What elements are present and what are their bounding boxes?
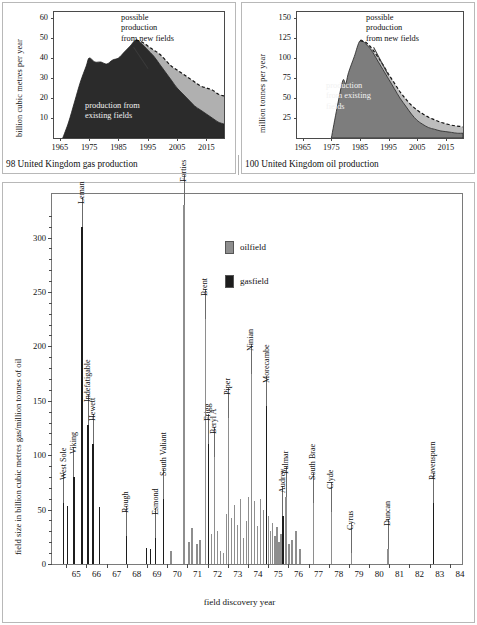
y-tick-label: 50 xyxy=(269,93,291,102)
y-tick-mark xyxy=(294,98,297,99)
y-minor-tick xyxy=(49,357,52,358)
x-tick-label: 1985 xyxy=(347,143,373,152)
gas-production-panel: billion cubic metres per year 1020304050… xyxy=(2,2,236,174)
legend-label-gasfield: gasfield xyxy=(240,276,269,286)
field-bar xyxy=(248,497,249,565)
y-minor-tick xyxy=(49,281,52,282)
y-tick-label: 40 xyxy=(26,53,48,62)
y-minor-tick xyxy=(49,401,52,402)
y-tick-mark xyxy=(51,78,54,79)
x-tick-mark xyxy=(268,564,269,568)
y-minor-tick xyxy=(49,325,52,326)
x-tick-label: 1965 xyxy=(47,143,73,152)
field-bar xyxy=(170,551,171,564)
legend-swatch-oilfield xyxy=(225,241,234,254)
field-bar xyxy=(288,544,289,564)
field-bar xyxy=(295,531,296,564)
y-minor-tick xyxy=(49,553,52,554)
x-tick-mark xyxy=(60,138,61,141)
field-bar xyxy=(263,510,264,564)
y-minor-tick xyxy=(49,259,52,260)
field-bar xyxy=(237,525,238,564)
field-label: South Valiant xyxy=(159,432,168,476)
field-label: Hewett xyxy=(88,398,97,421)
gas-y-axis-label: billion cubic metres per year xyxy=(15,39,24,137)
x-tick-mark xyxy=(127,564,128,568)
field-bar xyxy=(92,444,93,564)
x-tick-mark xyxy=(148,138,149,141)
y-tick-label: 150 xyxy=(269,13,291,22)
y-tick-mark xyxy=(51,38,54,39)
y-minor-tick xyxy=(49,433,52,434)
field-label: Duncan xyxy=(383,501,392,526)
field-bar xyxy=(73,477,74,564)
x-tick-label: 1975 xyxy=(76,143,102,152)
x-tick-mark xyxy=(118,138,119,141)
y-tick-label: 50 xyxy=(22,505,46,515)
x-tick-mark xyxy=(187,564,188,568)
x-tick-mark xyxy=(389,564,390,568)
field-bar xyxy=(155,538,156,564)
oil-y-axis-label: million tonnes per year xyxy=(258,54,267,133)
field-bar xyxy=(351,553,352,564)
x-tick-mark xyxy=(206,138,207,141)
y-minor-tick xyxy=(49,520,52,521)
y-tick-mark xyxy=(294,18,297,19)
y-minor-tick xyxy=(49,423,52,424)
y-minor-tick xyxy=(49,477,52,478)
field-label: Indefatigable xyxy=(83,359,92,402)
field-bar xyxy=(63,503,64,564)
x-tick-label: 1995 xyxy=(135,143,161,152)
x-tick-mark xyxy=(360,138,361,141)
legend-label-oilfield: oilfield xyxy=(240,242,266,252)
field-bar xyxy=(234,505,235,564)
y-minor-tick xyxy=(49,412,52,413)
x-tick-mark xyxy=(228,564,229,568)
x-tick-mark xyxy=(107,564,108,568)
y-tick-label: 150 xyxy=(22,396,46,406)
field-label: Forties xyxy=(179,159,188,181)
field-bar xyxy=(254,501,255,564)
x-tick-mark xyxy=(309,564,310,568)
y-minor-tick xyxy=(49,238,52,239)
field-bar xyxy=(211,534,212,565)
y-tick-label: 30 xyxy=(26,73,48,82)
x-tick-mark xyxy=(66,564,67,568)
x-tick-label: 1985 xyxy=(105,143,131,152)
field-label: Clyde xyxy=(326,469,335,488)
field-label: Esmond xyxy=(151,488,160,515)
x-tick-mark xyxy=(86,564,87,568)
field-bar xyxy=(87,425,88,564)
x-tick-mark xyxy=(167,564,168,568)
x-tick-label: 1965 xyxy=(290,143,316,152)
y-minor-tick xyxy=(49,346,52,347)
legend-swatch-gasfield xyxy=(225,275,234,288)
field-bar xyxy=(282,516,283,564)
y-minor-tick xyxy=(49,379,52,380)
y-minor-tick xyxy=(49,499,52,500)
y-minor-tick xyxy=(49,466,52,467)
x-tick-label: 2005 xyxy=(404,143,430,152)
x-tick-mark xyxy=(331,138,332,141)
field-bar xyxy=(188,542,189,564)
y-tick-mark xyxy=(51,58,54,59)
y-minor-tick xyxy=(49,216,52,217)
field-bar xyxy=(183,205,184,564)
x-tick-mark xyxy=(248,564,249,568)
y-tick-label: 20 xyxy=(26,93,48,102)
y-minor-tick xyxy=(49,564,52,565)
field-label: Beryl A xyxy=(209,409,218,434)
y-tick-label: 200 xyxy=(22,341,46,351)
field-bar xyxy=(146,548,147,564)
x-tick-label: 2005 xyxy=(164,143,190,152)
field-bar xyxy=(220,551,221,564)
field-bar xyxy=(214,457,215,564)
y-minor-tick xyxy=(49,292,52,293)
field-label: South Brae xyxy=(308,444,317,480)
field-bar xyxy=(387,549,388,564)
y-minor-tick xyxy=(49,488,52,489)
field-label: Fulmar xyxy=(281,450,290,473)
x-tick-mark xyxy=(89,138,90,141)
y-tick-label: 10 xyxy=(26,113,48,122)
y-tick-mark xyxy=(51,98,54,99)
